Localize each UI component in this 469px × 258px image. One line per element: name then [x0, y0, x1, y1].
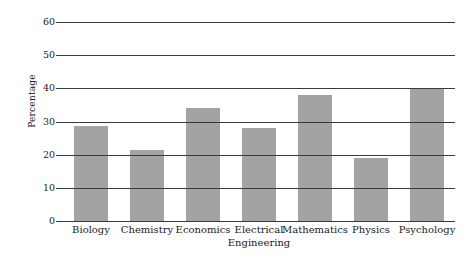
y-axis-tick-label: 40: [31, 83, 55, 93]
y-axis-tick-label: 60: [31, 17, 55, 27]
x-axis-tick-label-line1: Psychology: [399, 224, 456, 235]
x-axis-tick-label-line2: Engineering: [224, 237, 294, 250]
y-axis-tick: [56, 55, 63, 56]
y-axis-tick: [56, 188, 63, 189]
gridline: [63, 155, 455, 156]
y-axis-tick: [56, 122, 63, 123]
y-axis-tick-label: 50: [31, 50, 55, 60]
bar: [74, 126, 108, 221]
bar: [186, 108, 220, 221]
x-axis-tick-label-line1: Electrical: [235, 224, 284, 235]
y-axis-tick-label: 0: [31, 216, 55, 226]
bar: [298, 95, 332, 221]
bar: [354, 158, 388, 221]
y-axis-tick: [56, 88, 63, 89]
x-axis-tick-labels: BiologyChemistryEconomicsElectricalEngin…: [63, 224, 455, 258]
x-axis-tick-label: Psychology: [392, 224, 462, 237]
x-axis-baseline: [63, 221, 455, 222]
bar-chart: Percentage 0102030405060 BiologyChemistr…: [0, 0, 469, 258]
gridline: [63, 188, 455, 189]
x-axis-tick-label-line1: Economics: [176, 224, 231, 235]
x-axis-tick-label-line1: Physics: [352, 224, 390, 235]
x-axis-tick-label-line1: Biology: [72, 224, 110, 235]
gridline: [63, 88, 455, 89]
y-axis-tick: [56, 155, 63, 156]
y-axis-tick-labels: 0102030405060: [29, 22, 55, 221]
bar: [242, 128, 276, 221]
y-axis-tick-label: 10: [31, 183, 55, 193]
gridline: [63, 22, 455, 23]
y-axis-tick: [56, 22, 63, 23]
y-axis-tick-label: 20: [31, 150, 55, 160]
bar: [130, 150, 164, 221]
gridline: [63, 122, 455, 123]
plot-area: [63, 22, 455, 221]
y-axis-tick: [56, 221, 63, 222]
x-axis-tick-label-line1: Chemistry: [121, 224, 173, 235]
y-axis-tick-label: 30: [31, 117, 55, 127]
gridline: [63, 55, 455, 56]
